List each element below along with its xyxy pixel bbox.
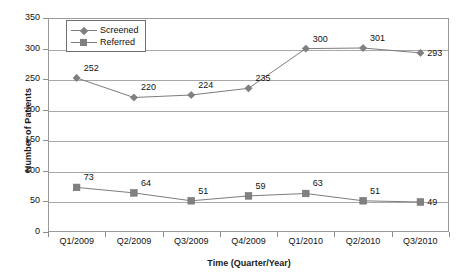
legend-item-screened[interactable]: Screened [71, 24, 139, 36]
x-tick-label: Q3/2010 [392, 236, 449, 246]
data-label: 252 [84, 63, 99, 73]
data-point-marker [303, 190, 310, 197]
y-tick-label: 100 [0, 165, 40, 175]
legend-item-referred[interactable]: Referred [71, 36, 139, 48]
x-tick-label: Q1/2009 [48, 236, 105, 246]
data-label: 51 [370, 186, 380, 196]
data-label: 300 [313, 34, 328, 44]
legend-label: Screened [100, 25, 139, 35]
data-label: 301 [370, 33, 385, 43]
data-point-marker [360, 198, 367, 205]
data-label: 73 [84, 172, 94, 182]
diamond-marker-icon [80, 26, 88, 34]
data-label: 51 [198, 186, 208, 196]
legend-label: Referred [100, 37, 135, 47]
y-tick-label: 200 [0, 104, 40, 114]
y-tick-label: 250 [0, 73, 40, 83]
x-tick-label: Q1/2010 [277, 236, 334, 246]
y-tick-label: 350 [0, 12, 40, 22]
data-label: 224 [198, 80, 213, 90]
data-point-marker [417, 199, 424, 206]
data-label: 293 [427, 48, 442, 58]
line-chart-figure: Number of Patients 050100150200250300350… [0, 0, 462, 279]
data-label: 49 [427, 197, 437, 207]
y-tick-label: 300 [0, 43, 40, 53]
x-tick-label: Q2/2009 [105, 236, 162, 246]
data-point-marker [417, 49, 424, 56]
data-point-marker [360, 44, 367, 51]
data-label: 220 [141, 82, 156, 92]
y-tick-label: 50 [0, 195, 40, 205]
y-tick-label: 150 [0, 134, 40, 144]
data-point-marker [188, 198, 195, 205]
legend-square-marker-icon [71, 37, 97, 48]
data-point-marker [188, 91, 195, 98]
data-point-marker [302, 45, 309, 52]
data-point-marker [130, 94, 137, 101]
x-tick-label: Q2/2010 [334, 236, 391, 246]
data-point-marker [131, 190, 138, 197]
data-point-marker [73, 184, 80, 191]
x-tick-label: Q4/2009 [220, 236, 277, 246]
data-label: 63 [313, 178, 323, 188]
chart-legend[interactable]: ScreenedReferred [66, 20, 146, 52]
data-point-marker [245, 85, 252, 92]
square-marker-icon [80, 39, 87, 46]
x-tick-mark [449, 232, 450, 237]
x-axis-title: Time (Quarter/Year) [48, 258, 450, 268]
data-point-marker [73, 74, 80, 81]
data-point-marker [245, 193, 252, 200]
data-label: 235 [256, 73, 271, 83]
y-tick-label: 0 [0, 226, 40, 236]
legend-diamond-marker-icon [71, 25, 97, 36]
data-label: 59 [256, 181, 266, 191]
x-tick-label: Q3/2009 [163, 236, 220, 246]
data-label: 64 [141, 178, 151, 188]
